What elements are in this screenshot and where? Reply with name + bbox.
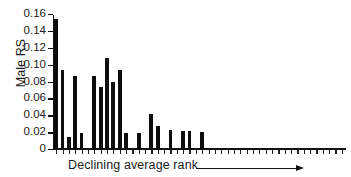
x-tick-mark: [291, 150, 292, 154]
bar: [111, 82, 115, 150]
y-tick-label: 0: [12, 143, 46, 155]
x-tick-mark: [221, 150, 222, 154]
x-tick-mark: [56, 150, 57, 154]
x-tick-mark: [177, 150, 178, 154]
bar: [54, 19, 58, 149]
x-tick-mark: [297, 150, 298, 154]
x-tick-mark: [316, 150, 317, 154]
x-tick-mark: [151, 150, 152, 154]
bar: [149, 114, 153, 149]
x-tick-mark: [139, 150, 140, 154]
x-tick-mark: [113, 150, 114, 154]
x-tick-mark: [278, 150, 279, 154]
x-tick-mark: [323, 150, 324, 154]
x-tick-mark: [253, 150, 254, 154]
y-tick-label: 0.12: [12, 42, 46, 54]
x-tick-mark: [120, 150, 121, 154]
x-tick-mark: [342, 150, 343, 154]
x-tick-mark: [145, 150, 146, 154]
bar: [169, 130, 173, 149]
x-tick-mark: [189, 150, 190, 154]
bar: [188, 131, 192, 149]
x-tick-mark: [164, 150, 165, 154]
x-axis-caption: Declining average rank: [68, 158, 198, 172]
x-tick-mark: [82, 150, 83, 154]
y-tick-label: 0.10: [12, 59, 46, 71]
chart-figure: Male RS 00.020.040.060.080.100.120.140.1…: [0, 0, 351, 177]
x-tick-mark: [329, 150, 330, 154]
y-tick-label: 0.14: [12, 25, 46, 37]
x-tick-mark: [215, 150, 216, 154]
x-tick-mark: [75, 150, 76, 154]
bar: [200, 132, 204, 149]
x-tick-mark: [170, 150, 171, 154]
x-tick-mark: [266, 150, 267, 154]
x-tick-mark: [209, 150, 210, 154]
bar: [156, 126, 160, 149]
bar-series: [53, 14, 345, 149]
x-axis-tick-marks: [53, 150, 345, 156]
x-tick-mark: [228, 150, 229, 154]
bar: [67, 137, 71, 149]
bar: [124, 133, 128, 149]
x-tick-mark: [107, 150, 108, 154]
arrow-head: [296, 165, 304, 171]
x-tick-mark: [304, 150, 305, 154]
x-tick-mark: [63, 150, 64, 154]
arrow-right-icon: [196, 165, 306, 173]
x-tick-mark: [247, 150, 248, 154]
x-tick-mark: [196, 150, 197, 154]
bar: [61, 70, 65, 149]
x-tick-mark: [69, 150, 70, 154]
x-tick-mark: [94, 150, 95, 154]
x-tick-mark: [335, 150, 336, 154]
x-tick-mark: [202, 150, 203, 154]
x-tick-mark: [240, 150, 241, 154]
y-tick-label: 0.04: [12, 110, 46, 122]
bar: [80, 133, 84, 149]
x-tick-mark: [101, 150, 102, 154]
x-tick-mark: [234, 150, 235, 154]
x-tick-mark: [285, 150, 286, 154]
y-axis-tick-labels: 00.020.040.060.080.100.120.140.16: [12, 0, 46, 177]
x-tick-mark: [88, 150, 89, 154]
x-tick-mark: [183, 150, 184, 154]
arrow-shaft: [196, 168, 298, 169]
x-tick-mark: [272, 150, 273, 154]
x-tick-mark: [310, 150, 311, 154]
bar: [105, 58, 109, 149]
bar: [137, 133, 141, 149]
bar: [73, 76, 77, 149]
bar: [118, 70, 122, 149]
x-tick-mark: [132, 150, 133, 154]
x-tick-mark: [259, 150, 260, 154]
x-tick-mark: [126, 150, 127, 154]
y-tick-label: 0.06: [12, 93, 46, 105]
y-tick-label: 0.02: [12, 126, 46, 138]
bar: [92, 76, 96, 149]
x-tick-mark: [158, 150, 159, 154]
bar: [181, 131, 185, 149]
y-tick-label: 0.16: [12, 8, 46, 20]
bar: [99, 87, 103, 149]
y-tick-label: 0.08: [12, 76, 46, 88]
